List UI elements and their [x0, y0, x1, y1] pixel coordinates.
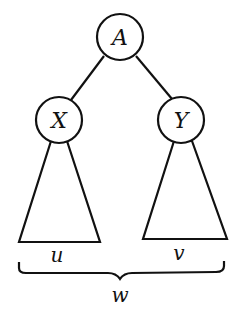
subtree-label-u: u: [51, 243, 64, 267]
node-x-label: X: [49, 108, 68, 133]
node-x: X: [36, 97, 82, 143]
subtree-label-v: v: [173, 241, 185, 265]
node-a: A: [97, 14, 143, 60]
node-a-label: A: [110, 25, 128, 50]
subtree-triangle-v: [143, 141, 227, 239]
node-y-label: Y: [174, 108, 191, 133]
tree-diagram: A X Y u v w: [0, 0, 239, 316]
subtree-triangle-u: [19, 141, 100, 242]
node-y: Y: [158, 97, 204, 143]
edge-a-x: [71, 56, 104, 100]
brace-label-w: w: [111, 283, 128, 307]
edge-a-y: [136, 56, 172, 99]
